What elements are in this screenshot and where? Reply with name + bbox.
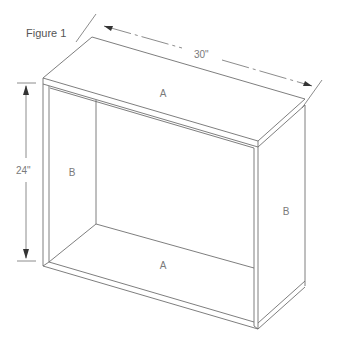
height-dimension-label: 24" <box>16 165 31 176</box>
top-panel <box>43 37 305 148</box>
top-panel-label: A <box>160 88 167 99</box>
bottom-panel <box>43 224 258 329</box>
right-panel-label: B <box>283 206 290 217</box>
width-dimension: 30" <box>76 14 322 108</box>
right-side-panel <box>254 105 305 329</box>
bottom-panel-label: A <box>160 260 167 271</box>
width-dimension-label: 30" <box>194 49 209 60</box>
height-dimension: 24" <box>16 83 36 261</box>
cabinet-box-diagram: 30" 24" <box>0 0 344 345</box>
left-panel-label: B <box>69 167 76 178</box>
